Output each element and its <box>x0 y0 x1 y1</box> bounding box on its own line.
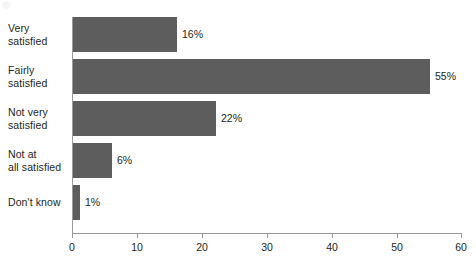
x-axis-tick-label: 30 <box>261 241 273 253</box>
x-axis-tick <box>202 233 203 238</box>
category-label-line: Fairly <box>8 64 70 77</box>
x-axis-tick-label: 10 <box>131 241 143 253</box>
bar-value-not-at-all-satisfied: 6% <box>117 143 132 178</box>
category-label-not-at-all-satisfied: Not at all satisfied <box>8 148 70 173</box>
category-label-line: Not very <box>8 106 70 119</box>
bar-not-at-all-satisfied <box>73 143 112 178</box>
category-label-line: Very <box>8 22 70 35</box>
x-axis-tick-label: 40 <box>326 241 338 253</box>
bar-chart: Very satisfied Fairly satisfied Not very… <box>0 0 476 276</box>
x-axis-tick <box>461 233 462 238</box>
category-label-line: all satisfied <box>8 161 70 174</box>
x-axis-tick <box>397 233 398 238</box>
bar-not-very-satisfied <box>73 101 216 136</box>
category-label-fairly-satisfied: Fairly satisfied <box>8 64 70 89</box>
bar-value-fairly-satisfied: 55% <box>435 59 456 94</box>
category-label-dont-know: Don't know <box>8 196 70 209</box>
x-axis-tick-label: 50 <box>391 241 403 253</box>
scan-artifact <box>2 1 11 9</box>
category-label-not-very-satisfied: Not very satisfied <box>8 106 70 131</box>
x-axis-tick <box>137 233 138 238</box>
x-axis-tick <box>332 233 333 238</box>
x-axis-tick <box>72 233 73 238</box>
x-axis-tick-label: 20 <box>196 241 208 253</box>
bar-very-satisfied <box>73 17 177 52</box>
category-label-line: Not at <box>8 148 70 161</box>
bar-dont-know <box>73 185 80 220</box>
category-label-line: Don't know <box>8 196 70 209</box>
category-label-line: satisfied <box>8 77 70 90</box>
plot-area: 0 10 20 30 40 50 60 16% 55% 22% 6% 1% <box>72 17 462 233</box>
x-axis-tick-label: 60 <box>455 241 467 253</box>
bar-fairly-satisfied <box>73 59 430 94</box>
x-axis-tick <box>267 233 268 238</box>
category-label-line: satisfied <box>8 35 70 48</box>
bar-value-dont-know: 1% <box>85 185 100 220</box>
category-label-line: satisfied <box>8 119 70 132</box>
category-label-very-satisfied: Very satisfied <box>8 22 70 47</box>
bar-value-not-very-satisfied: 22% <box>221 101 242 136</box>
x-axis-tick-label: 0 <box>69 241 75 253</box>
bar-value-very-satisfied: 16% <box>182 17 203 52</box>
